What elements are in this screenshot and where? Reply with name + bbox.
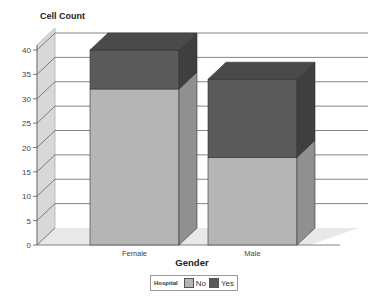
y-tick-label: 5 (27, 217, 32, 226)
legend-swatch-yes (209, 278, 219, 288)
y-tick-label: 0 (27, 241, 32, 250)
bar-top (90, 33, 197, 50)
y-tick-label: 30 (22, 95, 31, 104)
bar-top (208, 62, 315, 79)
x-axis-title: Gender (0, 257, 384, 268)
bar-segment-no (208, 157, 297, 245)
legend-label-no: No (196, 279, 206, 288)
bar-side (179, 72, 197, 245)
legend: Hospital No Yes (150, 275, 238, 291)
y-tick-label: 10 (22, 192, 31, 201)
legend-swatch-no (184, 278, 194, 288)
legend-title: Hospital (154, 280, 178, 286)
legend-label-yes: Yes (221, 279, 234, 288)
y-tick-label: 15 (22, 168, 31, 177)
bar-segment-no (90, 89, 179, 245)
y-tick-label: 25 (22, 119, 31, 128)
y-tick-label: 40 (22, 46, 31, 55)
bar-segment-yes (208, 79, 297, 157)
bar-side (297, 140, 315, 245)
y-tick-label: 20 (22, 144, 31, 153)
chart-root: Cell Count 0510152025303540FemaleMale Ge… (0, 0, 384, 305)
y-tick-label: 35 (22, 70, 31, 79)
bar-segment-yes (90, 50, 179, 89)
